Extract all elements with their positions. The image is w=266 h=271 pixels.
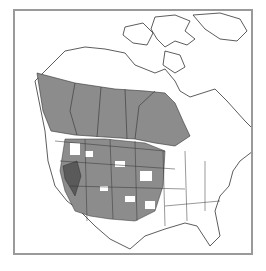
north-america-map xyxy=(15,11,253,255)
arctic-coastlines xyxy=(123,13,247,73)
map-frame xyxy=(13,9,253,255)
